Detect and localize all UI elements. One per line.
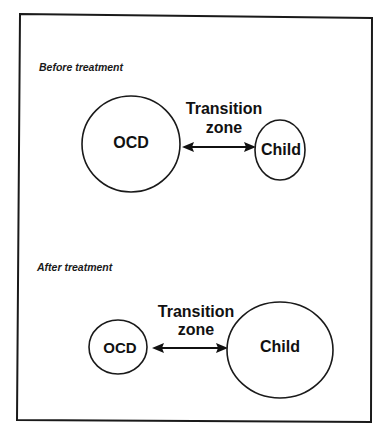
after-child-node: Child [227, 302, 333, 398]
after-ocd-node: OCD [89, 320, 147, 374]
before-transition-label: Transition [186, 100, 262, 117]
before-ocd-label: OCD [113, 134, 149, 151]
before-child-node: Child [255, 120, 305, 180]
after-ocd-label: OCD [103, 339, 137, 356]
after-zone-label: zone [178, 321, 215, 338]
after-child-label: Child [260, 338, 300, 355]
before-treatment-panel: Before treatment OCD Transition zone Chi… [39, 61, 305, 192]
ocd-child-diagram: Before treatment OCD Transition zone Chi… [0, 0, 387, 430]
after-transition-label: Transition [158, 303, 234, 320]
before-treatment-label: Before treatment [39, 61, 124, 73]
before-bidirectional-arrow-icon [182, 142, 256, 152]
after-treatment-panel: After treatment OCD Transition zone Chil… [36, 261, 333, 398]
before-child-label: Child [261, 141, 301, 158]
before-zone-label: zone [206, 119, 243, 136]
before-ocd-node: OCD [82, 96, 180, 192]
after-bidirectional-arrow-icon [152, 343, 228, 353]
after-treatment-label: After treatment [36, 261, 113, 273]
